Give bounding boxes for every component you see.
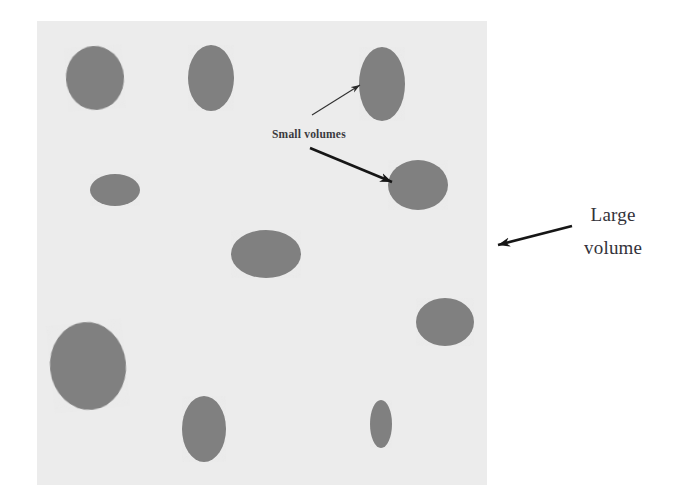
large-volume-arrow (498, 226, 572, 245)
figure-canvas: Small volumes Large volume (0, 0, 675, 503)
small-volumes-label: Small volumes (272, 128, 346, 140)
small-volume-7 (416, 298, 474, 346)
small-volume-4 (90, 174, 140, 206)
small-volume-5 (388, 160, 448, 210)
large-volume-label: Large volume (584, 198, 642, 264)
small-volume-10 (370, 400, 392, 448)
small-volume-6 (231, 230, 301, 278)
small-volume-2 (188, 45, 234, 111)
small-volume-9 (182, 396, 226, 462)
large-volume-label-line2: volume (584, 231, 642, 264)
diagram-graphics (0, 0, 675, 503)
small-volume-3 (359, 47, 405, 121)
large-volume-label-line1: Large (584, 198, 642, 231)
